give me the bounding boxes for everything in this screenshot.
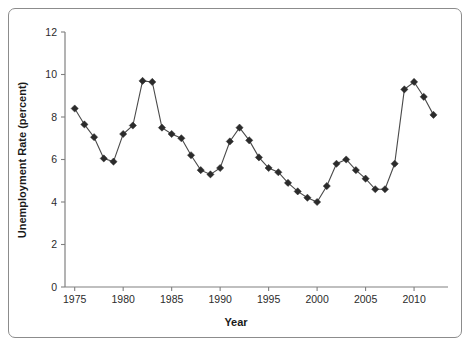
x-tick-label: 1995 [257,293,281,305]
data-point-marker [323,182,330,189]
series-line-unemployment-rate [75,81,434,202]
y-tick-label: 12 [45,26,57,38]
data-point-marker [197,167,204,174]
data-point-marker [381,186,388,193]
y-tick-label: 6 [51,153,57,165]
data-point-marker [314,198,321,205]
x-tick-label: 1980 [111,293,135,305]
x-tick-label: 2010 [402,293,426,305]
y-tick-label: 2 [51,238,57,250]
x-tick-label: 2000 [305,293,329,305]
data-point-marker [333,160,340,167]
y-tick-label: 10 [45,68,57,80]
data-point-marker [158,124,165,131]
data-point-marker [110,158,117,165]
series-markers [71,77,437,205]
data-point-marker [420,93,427,100]
data-point-marker [139,77,146,84]
x-axis-ticks: 19751980198519901995200020052010 [63,287,426,305]
data-point-marker [304,194,311,201]
data-point-marker [187,152,194,159]
data-point-marker [217,164,224,171]
data-point-marker [226,138,233,145]
y-tick-label: 0 [51,281,57,293]
x-tick-label: 1985 [160,293,184,305]
figure-container: 024681012 197519801985199019952000200520… [0,0,470,354]
data-point-marker [168,130,175,137]
data-point-marker [149,78,156,85]
data-point-marker [71,105,78,112]
line-chart: 024681012 197519801985199019952000200520… [0,0,470,354]
x-tick-label: 1975 [63,293,87,305]
data-point-marker [430,111,437,118]
plot-area-wrapper: 024681012 197519801985199019952000200520… [0,0,470,354]
x-tick-label: 2005 [354,293,378,305]
x-tick-label: 1990 [208,293,232,305]
data-point-marker [207,171,214,178]
data-point-marker [178,135,185,142]
data-point-marker [391,160,398,167]
x-axis-label: Year [224,316,248,328]
y-tick-label: 4 [51,196,57,208]
data-point-marker [100,155,107,162]
y-tick-label: 8 [51,111,57,123]
y-axis-label: Unemployment Rate (percent) [16,81,28,238]
y-axis-ticks: 024681012 [45,26,65,293]
